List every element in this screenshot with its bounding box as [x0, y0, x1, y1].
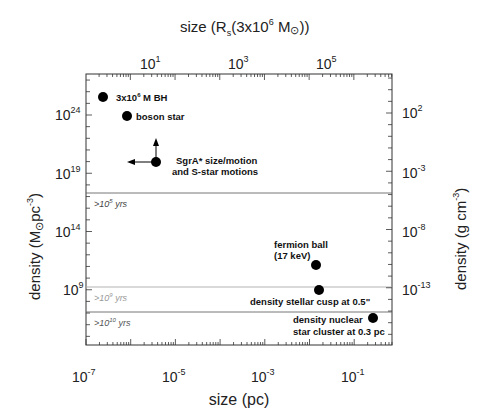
- point-nuclear-cluster: [368, 313, 378, 323]
- svg-text:density (M⊙pc-3): density (M⊙pc-3): [25, 193, 45, 300]
- x-tick-labels: 10-7 10-5 10-3 10-1: [72, 367, 365, 385]
- x-tick-label: 10-5: [162, 367, 186, 385]
- label-bh: 3x106 M BH: [116, 92, 168, 103]
- y-tick-label: 109: [63, 280, 84, 298]
- y2-tick-labels: 102 10-3 10-8 10-13: [402, 103, 431, 298]
- x2-tick-label: 101: [140, 54, 161, 72]
- point-bh: [98, 92, 108, 102]
- label-fermion-1: fermion ball: [274, 239, 328, 250]
- line-label-1e5: >105 yrs: [94, 198, 128, 209]
- x-axis-ticks: [86, 339, 392, 345]
- y2-tick-label: 10-13: [402, 280, 431, 298]
- x2-tick-label: 105: [316, 54, 337, 72]
- line-label-1e9: >109 yrs: [94, 292, 128, 303]
- line-label-1e10: >1010 yrs: [94, 317, 131, 328]
- label-sgra-2: and S-star motions: [172, 166, 258, 177]
- y2-tick-label: 102: [402, 103, 423, 121]
- chart-svg: 10-7 10-5 10-3 10-1 101 103 105 1024 101…: [0, 0, 485, 416]
- label-stellar-cusp: density stellar cusp at 0.5": [250, 296, 370, 307]
- y-tick-label: 1019: [55, 164, 81, 182]
- label-fermion-2: (17 keV): [274, 250, 310, 261]
- label-sgra-1: SgrA* size/motion: [176, 155, 257, 166]
- x2-axis-ticks: [99, 74, 392, 80]
- y2-axis-ticks: [386, 78, 392, 334]
- point-boson-star: [122, 111, 132, 121]
- y-axis-ticks: [86, 80, 92, 336]
- arrow-left-icon: [127, 159, 135, 165]
- label-nsc-2: star cluster at 0.3 pc: [293, 326, 385, 337]
- y2-tick-label: 10-8: [402, 222, 426, 240]
- x2-tick-labels: 101 103 105: [140, 54, 337, 72]
- label-boson-star: boson star: [136, 111, 185, 122]
- y-axis-title: density (M⊙pc-3): [25, 193, 45, 300]
- x-tick-label: 10-3: [251, 367, 275, 385]
- x-tick-label: 10-1: [341, 367, 365, 385]
- y2-tick-label: 10-3: [402, 163, 426, 181]
- x2-tick-label: 103: [228, 54, 249, 72]
- x-tick-label: 10-7: [72, 367, 96, 385]
- y-tick-label: 1024: [55, 105, 81, 123]
- x-axis-title: size (pc): [209, 391, 269, 408]
- point-stellar-cusp: [314, 285, 324, 295]
- y-tick-label: 1014: [55, 222, 81, 240]
- svg-text:density (g cm-3): density (g cm-3): [451, 188, 469, 290]
- label-nsc-1: density nuclear: [293, 314, 363, 325]
- y2-axis-title: density (g cm-3): [451, 188, 469, 290]
- x2-axis-title: size (Rs(3x106 M⊙)): [180, 17, 309, 38]
- point-fermion-ball: [311, 260, 321, 270]
- y-tick-labels: 1024 1019 1014 109: [55, 105, 84, 298]
- arrow-up-icon: [153, 138, 159, 146]
